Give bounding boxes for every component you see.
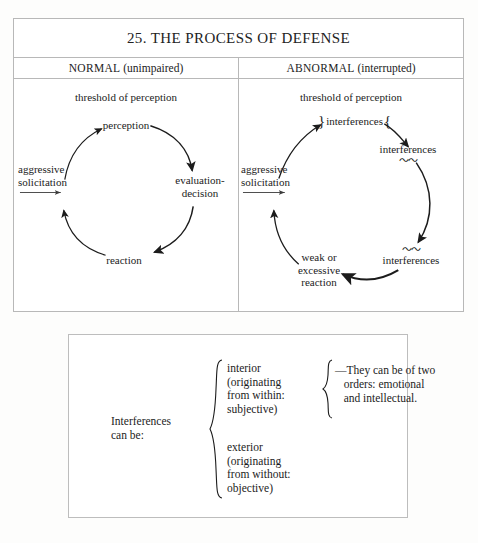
page-title: 25. THE PROCESS OF DEFENSE [127, 30, 350, 47]
squiggle-mark-right-icon: 〜〜 [399, 155, 417, 168]
outer-brace-icon [209, 359, 225, 502]
abnormal-cycle-diagram: threshold of perception } interferences … [239, 79, 463, 311]
process-of-defense-table: 25. THE PROCESS OF DEFENSE NORMAL (unimp… [13, 18, 464, 312]
normal-threshold-label: threshold of perception [75, 91, 177, 104]
normal-node-evaluation-decision: evaluation- decision [175, 174, 224, 199]
normal-node-reaction: reaction [106, 254, 141, 267]
column-header-abnormal-name: ABNORMAL [286, 62, 354, 74]
definition-lead-label: Interferences can be: [111, 415, 171, 442]
brace-left-icon: } [318, 116, 325, 127]
outer-brace-svg [209, 359, 225, 499]
normal-node-perception: perception [103, 119, 149, 132]
normal-input-aggressive-solicitation: aggressive solicitation [18, 163, 67, 188]
column-header-abnormal-qualifier: (interrupted) [357, 62, 415, 74]
normal-cycle-diagram: threshold of perception perception evalu… [14, 79, 239, 311]
figure-title-row: 25. THE PROCESS OF DEFENSE [14, 19, 463, 58]
definition-item-interior: interior (originating from within: subje… [227, 362, 285, 416]
squiggle-mark-lower-icon: 〜〜 [402, 244, 420, 257]
column-header-normal-qualifier: (unimpaired) [123, 62, 183, 74]
inner-brace-svg [322, 359, 334, 419]
column-header-row: NORMAL (unimpaired) ABNORMAL (interrupte… [14, 58, 463, 79]
interferences-definition-box: Interferences can be: interior (originat… [68, 334, 408, 518]
abnormal-node-weak-excessive-reaction: weak or excessive reaction [298, 251, 340, 289]
abnormal-node-top-interferences-label: interferences [326, 115, 383, 128]
abnormal-cycle-arrows [239, 79, 463, 311]
brace-right-icon: { [384, 116, 391, 127]
abnormal-input-aggressive-solicitation: aggressive solicitation [241, 163, 290, 188]
abnormal-threshold-label: threshold of perception [300, 91, 402, 104]
definition-note: —They can be of two orders: emotional an… [335, 363, 435, 405]
abnormal-node-top-interferences: } interferences { [318, 115, 391, 128]
abnormal-node-right-interferences: interferences [380, 143, 437, 156]
diagram-row: threshold of perception perception evalu… [14, 79, 463, 311]
definition-item-exterior: exterior (originating from without: obje… [227, 441, 291, 495]
column-header-normal-name: NORMAL [69, 62, 121, 74]
column-header-abnormal: ABNORMAL (interrupted) [239, 58, 463, 78]
column-header-normal: NORMAL (unimpaired) [14, 58, 239, 78]
inner-brace-icon [322, 359, 334, 422]
